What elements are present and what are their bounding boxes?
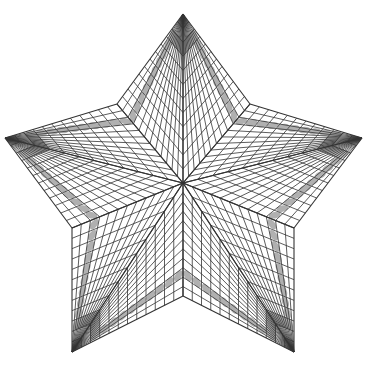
grid-line [134,14,184,124]
band-dot [46,128,58,135]
band-dot [191,276,203,290]
band-dot [200,282,212,296]
band-dot [163,276,175,290]
band-dot [309,128,321,135]
star-diagram [0,0,367,365]
grid-line [183,14,233,124]
band-dot [154,282,166,296]
star-grid-figure [0,0,367,365]
